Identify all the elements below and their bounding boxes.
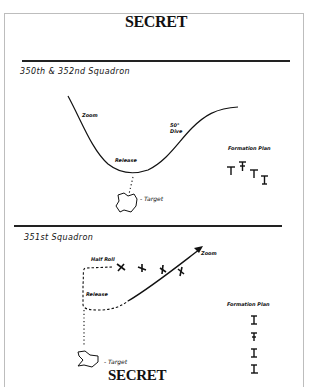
aircraft-icon — [251, 365, 258, 373]
section2-target-icon — [78, 351, 98, 367]
section2-zoom-path — [128, 249, 200, 301]
section2-half-roll-path — [83, 267, 128, 310]
aircraft-icon — [251, 333, 257, 341]
aircraft-icon — [250, 170, 258, 178]
aircraft-icon — [178, 267, 184, 276]
section1-drop-line — [129, 177, 133, 194]
section2-aircraft-in-flight — [117, 264, 184, 276]
section1-target-icon — [116, 193, 137, 212]
aircraft-icon — [251, 316, 257, 324]
aircraft-icon — [160, 265, 166, 274]
aircraft-icon — [138, 264, 146, 272]
aircraft-icon — [227, 167, 235, 175]
section2-formation-aircraft — [251, 316, 258, 373]
section1-dive-path — [68, 96, 238, 173]
aircraft-icon — [251, 349, 257, 357]
section1-formation-aircraft — [227, 162, 268, 184]
aircraft-icon — [261, 176, 268, 184]
flight-path-diagram — [0, 0, 312, 388]
aircraft-icon — [117, 264, 125, 271]
aircraft-icon — [239, 162, 246, 171]
